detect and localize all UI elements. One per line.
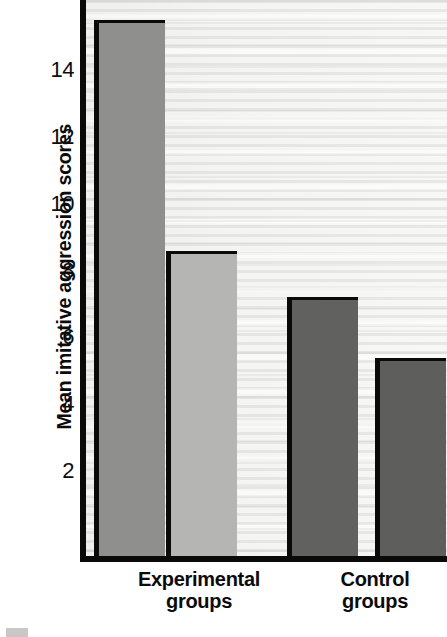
y-tick-label-8: 8 <box>62 258 74 284</box>
category-0-line-1: groups <box>84 590 314 612</box>
plot-area <box>86 0 447 558</box>
category-0-line-0: Experimental <box>84 568 314 590</box>
bar-3 <box>287 297 358 558</box>
y-tick-label-10: 10 <box>51 191 74 217</box>
y-axis-tick-labels: 2468101214 <box>0 0 86 637</box>
y-tick-label-4: 4 <box>62 391 74 417</box>
x-axis-category-label-experimental: Experimentalgroups <box>84 568 314 613</box>
bar-4 <box>375 358 446 558</box>
y-tick-label-14: 14 <box>51 57 74 83</box>
y-axis-line <box>80 0 86 562</box>
y-tick-label-6: 6 <box>62 324 74 350</box>
x-axis-category-label-control: Controlgroups <box>300 568 447 613</box>
bar-1 <box>94 20 165 558</box>
bar-2 <box>166 251 237 558</box>
y-tick-label-12: 12 <box>51 124 74 150</box>
category-1-line-1: groups <box>300 590 447 612</box>
page-edge-sliver <box>6 628 28 637</box>
bar-chart-figure: Mean imitative aggression scores 2468101… <box>0 0 447 637</box>
x-axis-line <box>80 556 447 562</box>
category-1-line-0: Control <box>300 568 447 590</box>
y-tick-label-2: 2 <box>62 458 74 484</box>
